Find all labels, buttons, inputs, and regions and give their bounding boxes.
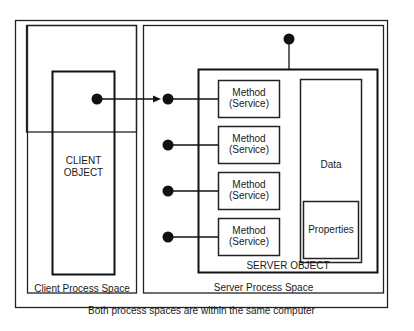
client-object-label-1: CLIENT <box>52 155 115 167</box>
data-label: Data <box>300 159 362 171</box>
method-sublabel: (Service) <box>218 98 280 110</box>
method-interface-dot <box>163 232 174 243</box>
method-interface-dot <box>163 140 174 151</box>
server-object-label: SERVER OBJECT <box>198 260 378 272</box>
method-interface-dot <box>163 186 174 197</box>
client-space-frame <box>27 26 137 133</box>
client-object-label-2: OBJECT <box>52 167 115 179</box>
properties-label: Properties <box>303 224 359 236</box>
method-sublabel: (Service) <box>218 190 280 202</box>
method-interface-dot <box>163 94 174 105</box>
call-arrowhead <box>153 96 161 103</box>
server-space-label: Server Process Space <box>143 282 384 294</box>
method-sublabel: (Service) <box>218 236 280 248</box>
client-process-space-frame <box>27 26 137 133</box>
method-sublabel: (Service) <box>218 144 280 156</box>
client-process-space <box>27 26 137 133</box>
client-space <box>28 26 137 133</box>
client-process-space-box <box>27 26 137 133</box>
top-interface-dot <box>284 34 295 45</box>
computer-caption: Both process spaces are within the same … <box>15 305 388 317</box>
client-space-label: Client Process Space <box>27 283 137 295</box>
